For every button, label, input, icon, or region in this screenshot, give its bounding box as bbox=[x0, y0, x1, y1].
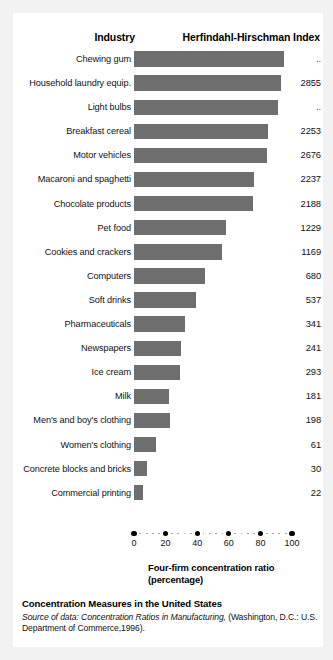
axis-title: Four-firm concentration ratio (percentag… bbox=[148, 562, 323, 585]
row-label-industry: Pet food bbox=[13, 216, 131, 240]
chart-row: Cookies and crackers1169 bbox=[13, 240, 323, 264]
row-value-hhi: 181 bbox=[275, 384, 321, 408]
axis-minor-dot bbox=[253, 533, 255, 535]
chart-row: Pet food1229 bbox=[13, 216, 323, 240]
bar bbox=[134, 172, 254, 187]
bar bbox=[134, 292, 196, 307]
row-label-industry: Macaroni and spaghetti bbox=[13, 167, 131, 191]
row-value-hhi: 2237 bbox=[275, 167, 321, 191]
bar-track bbox=[134, 457, 292, 481]
axis-minor-dot bbox=[184, 533, 186, 535]
axis-tick-marks: 020406080100 bbox=[134, 529, 306, 539]
bar bbox=[134, 124, 268, 139]
chart-row: Household laundry equip.2855 bbox=[13, 71, 323, 95]
row-value-hhi: 198 bbox=[275, 408, 321, 432]
axis-tick-label: 80 bbox=[247, 538, 273, 548]
row-label-industry: Computers bbox=[13, 264, 131, 288]
row-value-hhi: 2253 bbox=[275, 119, 321, 143]
row-value-hhi: 537 bbox=[275, 288, 321, 312]
caption-title: Concentration Measures in the United Sta… bbox=[22, 598, 222, 609]
chart-row: Commercial printing22 bbox=[13, 481, 323, 505]
row-value-hhi: 2855 bbox=[275, 71, 321, 95]
chart-row: Milk181 bbox=[13, 384, 323, 408]
axis-tick-label: 60 bbox=[216, 538, 242, 548]
row-value-hhi: 680 bbox=[275, 264, 321, 288]
row-label-industry: Chewing gum bbox=[13, 47, 131, 71]
axis-tick-dot bbox=[289, 531, 294, 536]
axis-minor-dot bbox=[247, 533, 249, 535]
row-label-industry: Men's and boy's clothing bbox=[13, 408, 131, 432]
row-label-industry: Ice cream bbox=[13, 360, 131, 384]
bar bbox=[134, 413, 170, 428]
bar-track bbox=[134, 481, 292, 505]
bar-rows: Chewing gum..Household laundry equip.285… bbox=[13, 47, 323, 505]
row-value-hhi: 22 bbox=[275, 481, 321, 505]
bar-track bbox=[134, 119, 292, 143]
bar bbox=[134, 220, 226, 235]
row-label-industry: Commercial printing bbox=[13, 481, 131, 505]
column-header-industry: Industry bbox=[13, 31, 135, 43]
row-value-hhi: 1169 bbox=[275, 240, 321, 264]
chart-row: Macaroni and spaghetti2237 bbox=[13, 167, 323, 191]
bar-track bbox=[134, 408, 292, 432]
row-label-industry: Women's clothing bbox=[13, 433, 131, 457]
bar-track bbox=[134, 216, 292, 240]
bar-track bbox=[134, 240, 292, 264]
source-prefix: Source of data: bbox=[22, 612, 79, 622]
axis-tick-dot bbox=[258, 531, 263, 536]
axis-tick-dot bbox=[131, 531, 136, 536]
row-label-industry: Motor vehicles bbox=[13, 143, 131, 167]
axis-minor-dot bbox=[285, 533, 287, 535]
row-value-hhi: 2188 bbox=[275, 192, 321, 216]
axis-minor-dot bbox=[241, 533, 243, 535]
bar-track bbox=[134, 95, 292, 119]
axis-tick-label: 100 bbox=[279, 538, 305, 548]
row-label-industry: Pharmaceuticals bbox=[13, 312, 131, 336]
axis-minor-dot bbox=[266, 533, 268, 535]
bar-track bbox=[134, 336, 292, 360]
bar bbox=[134, 365, 180, 380]
bar-track bbox=[134, 167, 292, 191]
row-label-industry: Newspapers bbox=[13, 336, 131, 360]
bar bbox=[134, 341, 181, 356]
row-value-hhi: 1229 bbox=[275, 216, 321, 240]
row-label-industry: Concrete blocks and bricks bbox=[13, 457, 131, 481]
chart-row: Motor vehicles2676 bbox=[13, 143, 323, 167]
bar-track bbox=[134, 71, 292, 95]
axis-tick-dot bbox=[163, 531, 168, 536]
bar bbox=[134, 75, 281, 90]
caption-box: Concentration Measures in the United Sta… bbox=[13, 591, 323, 647]
axis-tick-dot bbox=[226, 531, 231, 536]
chart-row: Breakfast cereal2253 bbox=[13, 119, 323, 143]
axis-title-line1: Four-firm concentration ratio bbox=[148, 562, 323, 574]
chart-row: Newspapers241 bbox=[13, 336, 323, 360]
bar bbox=[134, 244, 222, 259]
row-value-hhi: 341 bbox=[275, 312, 321, 336]
chart-row: Women's clothing61 bbox=[13, 433, 323, 457]
row-value-hhi: 30 bbox=[275, 457, 321, 481]
chart-row: Ice cream293 bbox=[13, 360, 323, 384]
bar bbox=[134, 268, 205, 283]
caption-source: Source of data: Concentration Ratios in … bbox=[22, 612, 318, 635]
row-label-industry: Chocolate products bbox=[13, 192, 131, 216]
bar-track bbox=[134, 360, 292, 384]
bar bbox=[134, 51, 284, 66]
row-label-industry: Milk bbox=[13, 384, 131, 408]
axis-minor-dot bbox=[222, 533, 224, 535]
chart-row: Men's and boy's clothing198 bbox=[13, 408, 323, 432]
row-label-industry: Cookies and crackers bbox=[13, 240, 131, 264]
chart-row: Chewing gum.. bbox=[13, 47, 323, 71]
bar bbox=[134, 316, 185, 331]
axis-title-line2: (percentage) bbox=[148, 574, 323, 586]
axis-minor-dot bbox=[234, 533, 236, 535]
figure-page: Industry Herfindahl-Hirschman Index Chew… bbox=[0, 0, 333, 660]
axis-minor-dot bbox=[215, 533, 217, 535]
bar-track bbox=[134, 47, 292, 71]
row-value-hhi: 2676 bbox=[275, 143, 321, 167]
axis-minor-dot bbox=[203, 533, 205, 535]
column-header-hhi: Herfindahl-Hirschman Index bbox=[135, 31, 323, 43]
bar bbox=[134, 196, 253, 211]
bar-track bbox=[134, 433, 292, 457]
axis-tick-label: 40 bbox=[184, 538, 210, 548]
axis-minor-dot bbox=[177, 533, 179, 535]
